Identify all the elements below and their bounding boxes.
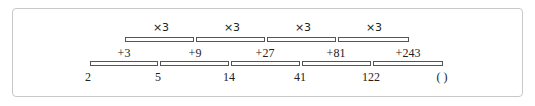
difference-bar <box>160 61 229 66</box>
ratio-label: ×3 <box>224 22 240 34</box>
difference-label: +3 <box>118 47 131 59</box>
sequence-term: 122 <box>362 71 380 83</box>
ratio-label: ×3 <box>366 22 382 34</box>
ratio-bar <box>338 37 409 42</box>
difference-label: +9 <box>189 47 202 59</box>
sequence-term: 5 <box>155 71 161 83</box>
difference-label: +27 <box>256 47 275 59</box>
difference-bar <box>231 61 300 66</box>
difference-bar <box>90 61 158 66</box>
sequence-term: 41 <box>294 71 306 83</box>
difference-label: +243 <box>396 47 421 59</box>
ratio-label: ×3 <box>153 22 169 34</box>
ratio-bar <box>267 37 336 42</box>
sequence-term: 2 <box>85 71 91 83</box>
ratio-label: ×3 <box>295 22 311 34</box>
difference-bar <box>302 61 371 66</box>
difference-label: +81 <box>327 47 346 59</box>
difference-bar <box>373 61 443 66</box>
sequence-term: 14 <box>223 71 235 83</box>
answer-blank: ( ) <box>437 71 448 83</box>
ratio-bar <box>196 37 265 42</box>
ratio-bar <box>125 37 194 42</box>
